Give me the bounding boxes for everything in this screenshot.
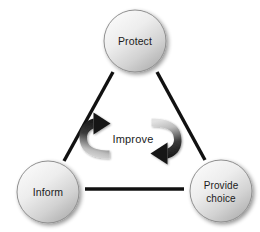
diagram-canvas: Improve Protect Inform Provide choice xyxy=(0,0,260,232)
center-label: Improve xyxy=(112,133,153,145)
cycle-diagram: Improve Protect Inform Provide choice xyxy=(0,0,260,232)
node-inform-label: Inform xyxy=(33,186,64,198)
node-protect-label: Protect xyxy=(118,35,152,47)
node-provide-choice-circle[interactable] xyxy=(190,160,252,222)
node-provide-choice-label-line2: choice xyxy=(206,193,236,204)
right-cycle-arrow xyxy=(151,119,182,165)
node-inform[interactable]: Inform xyxy=(17,161,79,223)
node-protect[interactable]: Protect xyxy=(104,10,166,72)
node-provide-choice[interactable]: Provide choice xyxy=(190,160,252,222)
node-provide-choice-label-line1: Provide xyxy=(204,180,239,191)
left-cycle-arrow xyxy=(79,113,110,159)
